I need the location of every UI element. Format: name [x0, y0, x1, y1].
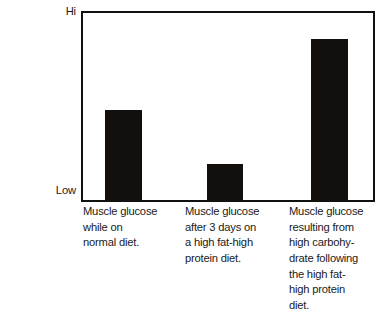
bar-1	[207, 164, 243, 200]
category-label-2-line-2: high carbohy-	[289, 235, 387, 251]
bar-chart-figure: Amount of glycogen(stored glucose) in a …	[0, 0, 387, 313]
category-label-2: Muscle glucoseresulting fromhigh carbohy…	[289, 204, 387, 313]
bar-2	[311, 39, 349, 200]
category-label-1-line-0: Muscle glucose	[185, 204, 285, 220]
category-label-1-line-1: after 3 days on	[185, 220, 285, 236]
category-label-0-line-2: normal diet.	[83, 235, 183, 251]
category-label-2-line-4: the high fat-	[289, 267, 387, 283]
bar-0	[105, 110, 143, 200]
category-label-2-line-6: diet.	[289, 298, 387, 313]
category-label-2-line-0: Muscle glucose	[289, 204, 387, 220]
category-label-0-line-0: Muscle glucose	[83, 204, 183, 220]
y-axis-tick-hi: Hi	[66, 5, 76, 17]
category-labels: Muscle glucosewhile onnormal diet. Muscl…	[81, 204, 381, 312]
plot-area	[81, 11, 375, 202]
plot-inner	[83, 13, 373, 200]
y-axis-tick-low: Low	[56, 184, 76, 196]
category-label-2-line-1: resulting from	[289, 220, 387, 236]
category-label-1-line-2: a high fat-high	[185, 235, 285, 251]
category-label-0: Muscle glucosewhile onnormal diet.	[83, 204, 183, 251]
category-label-2-line-3: drate following	[289, 251, 387, 267]
category-label-1: Muscle glucoseafter 3 days ona high fat-…	[185, 204, 285, 267]
category-label-0-line-1: while on	[83, 220, 183, 236]
category-label-1-line-3: protein diet.	[185, 251, 285, 267]
category-label-2-line-5: high protein	[289, 282, 387, 298]
